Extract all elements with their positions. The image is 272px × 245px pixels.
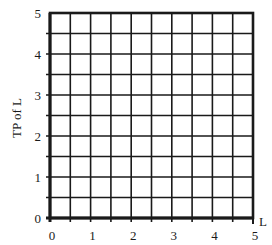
- chart-canvas: 012345 012345 TP of L L: [0, 0, 272, 245]
- x-tick-label: 4: [211, 228, 218, 243]
- x-axis-title: L: [259, 214, 267, 229]
- y-tick-label: 5: [35, 6, 42, 21]
- x-tick-label: 1: [89, 228, 96, 243]
- x-tick-label: 0: [49, 228, 56, 243]
- y-axis-title: TP of L: [9, 98, 24, 138]
- y-tick-label: 2: [35, 129, 42, 144]
- y-axis-ticks: 012345: [35, 6, 42, 226]
- grid-lines: [46, 13, 253, 222]
- x-axis-ticks: 012345: [49, 228, 259, 243]
- y-tick-label: 3: [35, 88, 42, 103]
- x-tick-label: 2: [130, 228, 137, 243]
- plot-frame: [46, 13, 253, 224]
- x-tick-label: 3: [171, 228, 178, 243]
- y-tick-label: 0: [35, 211, 42, 226]
- y-tick-label: 4: [35, 47, 42, 62]
- y-tick-label: 1: [35, 170, 42, 185]
- x-tick-label: 5: [252, 228, 259, 243]
